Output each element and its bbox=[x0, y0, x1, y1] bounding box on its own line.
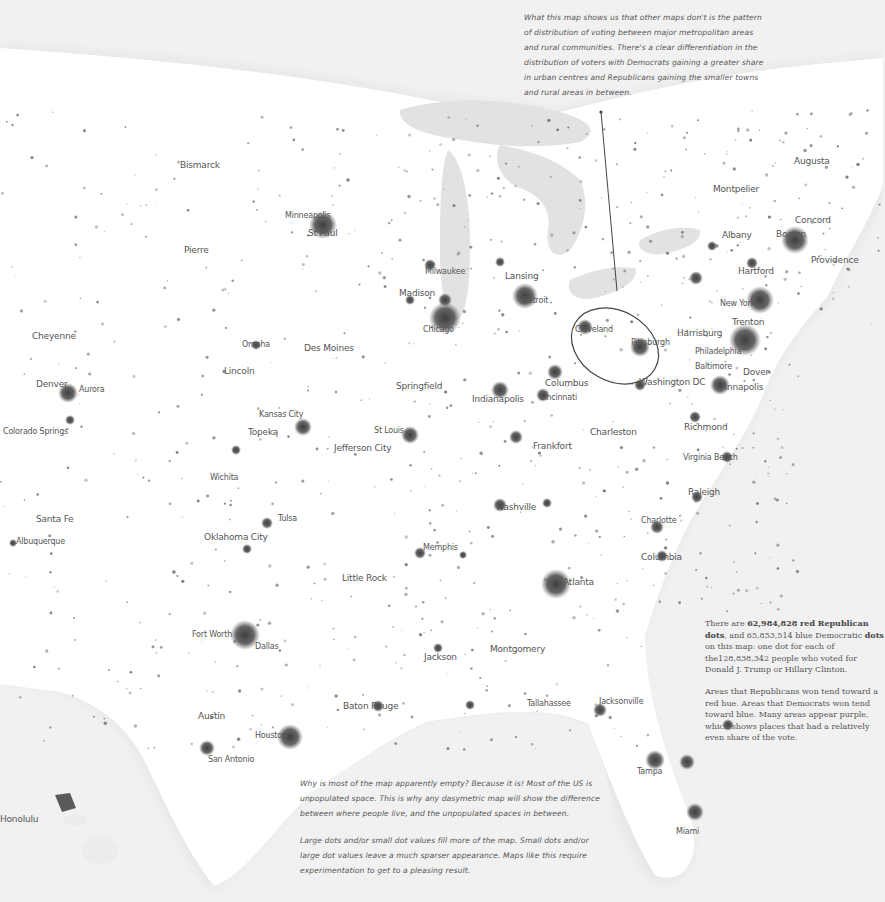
city-label: Virginia Beach bbox=[683, 453, 738, 462]
city-label: Concord bbox=[795, 215, 831, 225]
city-label: Raleigh bbox=[688, 487, 720, 497]
dot-count-text: There are 62,984,828 red Republican dots… bbox=[705, 618, 885, 676]
city-label: Wichita bbox=[210, 473, 238, 482]
city-label: Houston bbox=[255, 731, 287, 740]
city-label: Des Moines bbox=[304, 343, 354, 353]
city-label: Pittsburgh bbox=[631, 338, 670, 347]
city-label: Cheyenne bbox=[32, 331, 76, 341]
city-label: Bismarck bbox=[180, 160, 220, 170]
city-label: Miami bbox=[676, 827, 699, 836]
city-label: Columbia bbox=[641, 552, 682, 562]
city-label: Atlanta bbox=[563, 577, 594, 587]
city-label: Denver bbox=[36, 379, 68, 389]
city-label: Nashville bbox=[497, 502, 536, 512]
city-label: St Paul bbox=[308, 228, 337, 238]
color-explanation-text: Areas that Republicans won tend toward a… bbox=[705, 686, 885, 744]
city-label: Chicago bbox=[423, 325, 454, 334]
city-label: Kansas City bbox=[259, 410, 303, 419]
city-label: Springfield bbox=[396, 381, 442, 391]
city-label: Charleston bbox=[590, 427, 637, 437]
annotation-dot-values: Large dots and/or small dot values fill … bbox=[300, 833, 640, 878]
city-label: New York bbox=[720, 299, 755, 308]
city-label: Minneapolis bbox=[285, 211, 330, 220]
city-label: Honolulu bbox=[0, 814, 38, 824]
annotation-top-text: What this map shows us that other maps d… bbox=[524, 10, 854, 100]
city-label: Tampa bbox=[637, 767, 662, 776]
city-label: Colorado Springs bbox=[3, 427, 68, 436]
city-label: Charlotte bbox=[641, 516, 676, 525]
city-label: Santa Fe bbox=[36, 514, 73, 524]
city-label: Aurora bbox=[79, 385, 105, 394]
city-label: Jacksonville bbox=[599, 697, 643, 706]
city-label: Fort Worth bbox=[192, 630, 232, 639]
city-label: Madison bbox=[399, 288, 435, 298]
city-label: Providence bbox=[811, 255, 859, 265]
city-label: St Louis bbox=[374, 426, 404, 435]
city-label: Austin bbox=[198, 711, 225, 721]
city-label: Pierre bbox=[184, 245, 209, 255]
city-label: Oklahoma City bbox=[204, 532, 268, 542]
annotation-empty-map: Why is most of the map apparently empty?… bbox=[300, 776, 640, 821]
city-label: Trenton bbox=[732, 317, 764, 327]
info-panel: There are 62,984,828 red Republican dots… bbox=[705, 618, 885, 744]
city-label: Detroit bbox=[522, 296, 548, 305]
city-label: Harrisburg bbox=[677, 328, 722, 338]
city-label: Indianapolis bbox=[472, 394, 524, 404]
city-label: Memphis bbox=[423, 543, 458, 552]
city-label: Hartford bbox=[738, 266, 774, 276]
city-label: Albuquerque bbox=[16, 537, 65, 546]
city-label: Tulsa bbox=[278, 514, 297, 523]
city-label: Jackson bbox=[424, 652, 457, 662]
city-label: Topeka bbox=[248, 427, 278, 437]
city-label: Lansing bbox=[505, 271, 538, 281]
annotation-top: What this map shows us that other maps d… bbox=[524, 10, 854, 100]
annotation-bottom: Why is most of the map apparently empty?… bbox=[300, 776, 640, 878]
city-label: Columbus bbox=[545, 378, 588, 388]
city-label: Boston bbox=[776, 229, 806, 239]
city-label: Milwaukee bbox=[425, 267, 465, 276]
city-label: Tallahassee bbox=[527, 699, 571, 708]
city-label: Lincoln bbox=[224, 366, 254, 376]
city-label: Little Rock bbox=[342, 573, 387, 583]
city-label: Baltimore bbox=[695, 362, 732, 371]
city-label: Philadelphia bbox=[695, 347, 741, 356]
city-label: Cleveland bbox=[575, 325, 613, 334]
city-label: Dover bbox=[743, 367, 769, 377]
city-label: Albany bbox=[722, 230, 752, 240]
city-label: Augusta bbox=[794, 156, 830, 166]
city-label: Jefferson City bbox=[334, 443, 391, 453]
city-label: Dallas bbox=[255, 642, 278, 651]
city-label: Baton Rouge bbox=[343, 701, 398, 711]
city-label: Montgomery bbox=[490, 644, 545, 654]
hawaii bbox=[55, 793, 118, 864]
city-label: Cincinnati bbox=[539, 393, 577, 402]
city-label: Omaha bbox=[242, 340, 270, 349]
city-label: Richmond bbox=[684, 422, 728, 432]
city-label: Frankfort bbox=[533, 441, 572, 451]
city-label: Montpelier bbox=[713, 184, 759, 194]
city-label: San Antonio bbox=[208, 755, 254, 764]
city-label: Washington DC bbox=[639, 377, 705, 387]
city-label: Annapolis bbox=[721, 382, 763, 392]
